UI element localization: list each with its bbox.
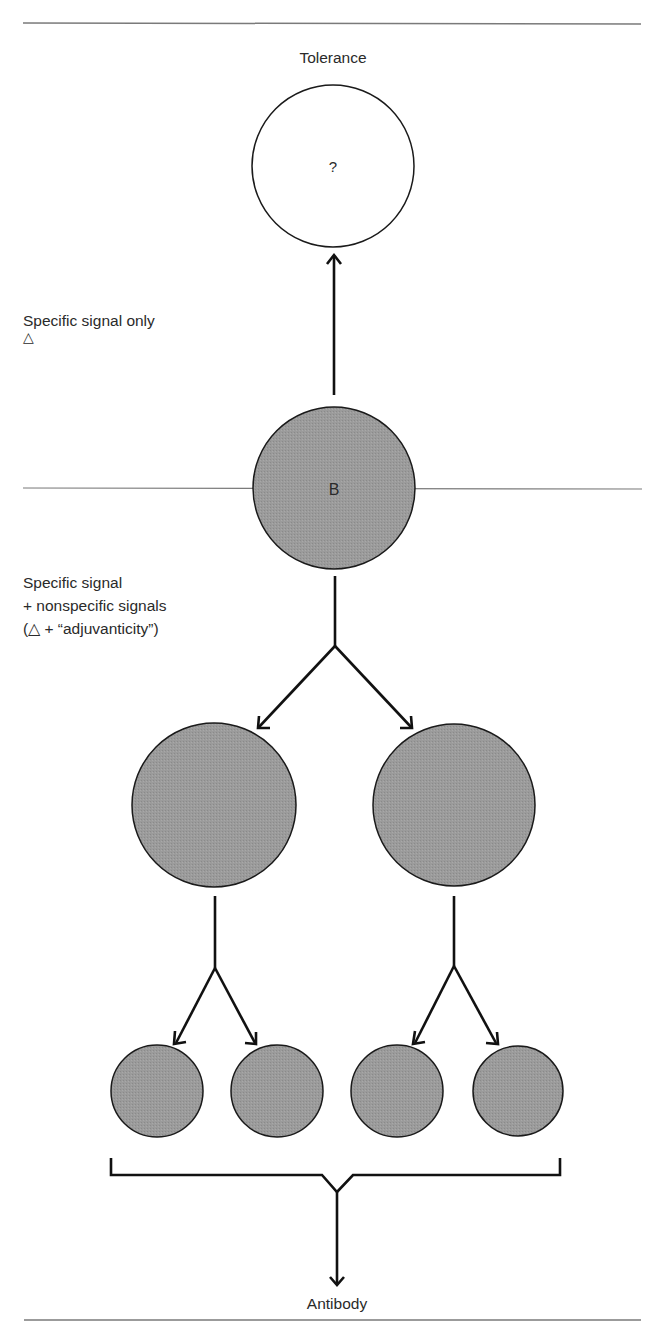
arrow-branch-level1 [258,576,412,728]
arrow-to-tolerance [327,255,341,395]
b-cell-activation-diagram: ? B [0,0,651,1331]
plasma-cell-4 [473,1046,563,1136]
arrow-to-antibody [330,1192,344,1285]
tolerance-pathway-label: Specific signal only △ [23,309,155,349]
daughter-cell-left [132,723,296,887]
b-cell-label: B [329,481,340,498]
outcome-antibody-label: Antibody [307,1292,367,1315]
top-divider [23,23,641,24]
activation-pathway-line1: Specific signal [23,571,166,594]
daughter-cell-right [373,724,535,886]
plasma-cell-3 [351,1045,443,1137]
plasma-cell-2 [231,1045,323,1137]
convergence-bracket [111,1158,560,1192]
arrow-branch-left [174,896,256,1044]
triangle-antigen-icon: △ [23,326,155,349]
activation-pathway-line3: (△ + “adjuvanticity”) [23,617,166,640]
arrow-branch-right [413,896,498,1044]
plasma-cell-1 [111,1045,203,1137]
tolerant-cell-label: ? [329,158,337,175]
outcome-tolerance-label: Tolerance [299,46,366,69]
activation-pathway-line2: + nonspecific signals [23,594,166,617]
activation-pathway-label: Specific signal + nonspecific signals (△… [23,571,166,640]
